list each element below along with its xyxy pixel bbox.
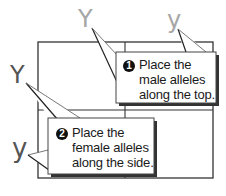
callout-1-line-3: along the top. [123,87,215,102]
callout-1-text: 1Place the male alleles along the top. [123,57,215,102]
callout-1-line-2: male alleles [123,72,215,87]
callout-2-line-1: 2Place the [56,125,154,140]
callout-2-line-3: along the side. [56,155,154,170]
male-allele-dominant: Y [78,8,93,30]
callout-1-line-1: 1Place the [123,57,215,72]
punnett-square-diagram: Y y Y y 1Place the male alleles along th… [0,0,226,196]
callout-2-line-2: female alleles [56,140,154,155]
female-allele-dominant: Y [10,64,25,86]
male-allele-recessive: y [167,9,181,31]
callout-2-text: 2Place the female alleles along the side… [56,125,154,170]
step-number-badge: 1 [123,60,135,72]
step-number-badge: 2 [56,128,68,140]
female-allele-recessive: y [12,137,27,159]
